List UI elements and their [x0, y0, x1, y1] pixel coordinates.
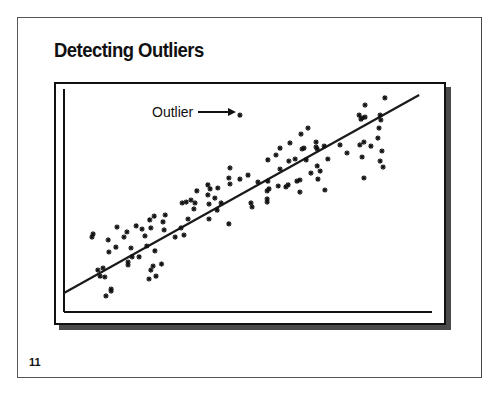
data-point — [357, 142, 362, 147]
data-point — [277, 146, 282, 151]
data-point — [313, 139, 318, 144]
data-point — [308, 170, 313, 175]
data-point — [178, 225, 183, 230]
data-point — [212, 195, 217, 200]
data-point — [287, 140, 292, 145]
data-point — [362, 115, 367, 120]
data-point — [322, 187, 327, 192]
data-point — [362, 102, 367, 107]
data-point — [134, 223, 139, 228]
outlier-point — [237, 112, 242, 117]
data-point — [102, 274, 107, 279]
data-point — [129, 254, 134, 259]
data-point — [298, 131, 303, 136]
data-point — [248, 200, 253, 205]
data-point — [286, 158, 291, 163]
data-point — [359, 154, 364, 159]
data-point — [142, 233, 147, 238]
data-point — [313, 144, 318, 149]
data-point — [90, 231, 95, 236]
data-point — [100, 265, 105, 270]
data-point — [215, 185, 220, 190]
data-point — [103, 293, 108, 298]
data-point — [106, 237, 111, 242]
data-point — [191, 206, 196, 211]
data-point — [376, 125, 381, 130]
outlier-label: Outlier — [152, 104, 194, 120]
data-point — [318, 168, 323, 173]
data-point — [361, 175, 366, 180]
data-point — [337, 142, 342, 147]
page-number: 11 — [29, 356, 41, 368]
data-point — [265, 179, 270, 184]
data-point — [109, 288, 114, 293]
data-point — [106, 249, 111, 254]
data-point — [344, 150, 349, 155]
data-point — [245, 172, 250, 177]
data-point — [180, 200, 185, 205]
data-point — [378, 112, 383, 117]
data-point — [95, 267, 100, 272]
data-point — [205, 192, 210, 197]
data-point — [139, 226, 144, 231]
data-point — [297, 177, 302, 182]
data-point — [382, 95, 387, 100]
data-point — [325, 156, 330, 161]
data-point — [361, 139, 366, 144]
data-point — [273, 152, 278, 157]
data-point — [205, 182, 210, 187]
data-point — [162, 227, 167, 232]
data-point — [188, 197, 193, 202]
data-point — [159, 261, 164, 266]
data-point — [286, 182, 291, 187]
data-point — [378, 158, 383, 163]
data-point — [301, 146, 306, 151]
data-point — [297, 189, 302, 194]
data-point — [146, 276, 151, 281]
data-point — [153, 274, 158, 279]
data-point — [293, 156, 298, 161]
data-point — [206, 216, 211, 221]
data-point — [227, 181, 232, 186]
regression-line — [64, 95, 419, 293]
data-point — [144, 243, 149, 248]
data-point — [148, 267, 153, 272]
data-point — [125, 262, 130, 267]
data-point — [276, 183, 281, 188]
data-point — [305, 125, 310, 130]
data-point — [124, 229, 129, 234]
data-point — [148, 225, 153, 230]
data-point — [113, 245, 118, 250]
data-point — [265, 157, 270, 162]
data-point — [152, 214, 157, 219]
data-point — [192, 200, 197, 205]
data-point — [265, 196, 270, 201]
data-point — [181, 232, 186, 237]
data-point — [185, 216, 190, 221]
data-point — [97, 274, 102, 279]
data-point — [368, 143, 373, 148]
data-point — [152, 248, 157, 253]
data-point — [380, 164, 385, 169]
data-point — [249, 204, 254, 209]
data-point — [184, 199, 189, 204]
data-point — [128, 245, 133, 250]
data-point — [136, 254, 141, 259]
data-point — [147, 217, 152, 222]
data-point — [226, 175, 231, 180]
data-point — [194, 188, 199, 193]
arrow-head-icon — [228, 108, 236, 116]
data-point — [265, 188, 270, 193]
data-point — [219, 200, 224, 205]
data-point — [304, 157, 309, 162]
data-point — [121, 234, 126, 239]
data-point — [315, 163, 320, 168]
data-point — [206, 201, 211, 206]
data-point — [277, 166, 282, 171]
data-point — [379, 148, 384, 153]
data-point — [315, 176, 320, 181]
data-point — [378, 117, 383, 122]
scatter-plot: Outlier — [0, 0, 499, 394]
data-point — [227, 165, 232, 170]
data-point — [214, 207, 219, 212]
